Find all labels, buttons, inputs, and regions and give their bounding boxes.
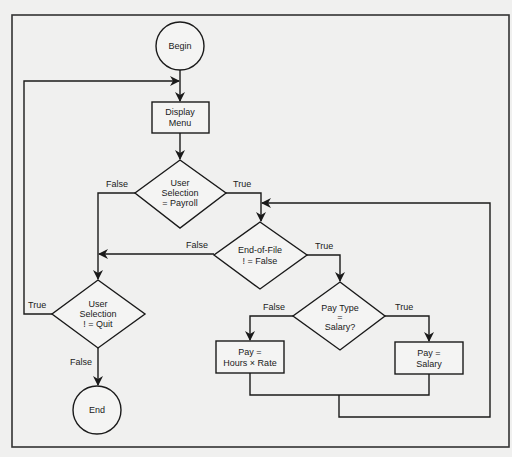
label-payroll-true: True xyxy=(233,179,251,189)
svg-text:Pay =: Pay = xyxy=(417,348,440,358)
svg-text:Pay =: Pay = xyxy=(238,347,261,357)
flowchart-canvas: Begin Display Menu User Selection = Payr… xyxy=(0,0,512,457)
label-quit-true: True xyxy=(28,300,46,310)
label-eof-false: False xyxy=(186,240,208,250)
node-pay-salary: Pay = Salary xyxy=(395,342,463,374)
label-payroll-false: False xyxy=(106,179,128,189)
node-end-of-file: End-of-File ! = False xyxy=(214,222,307,289)
svg-text:Selection: Selection xyxy=(79,309,116,319)
svg-text:Menu: Menu xyxy=(169,118,192,128)
svg-text:Display: Display xyxy=(165,107,195,117)
svg-text:=: = xyxy=(337,312,342,322)
label-eof-true: True xyxy=(315,241,333,251)
svg-text:User: User xyxy=(170,178,189,188)
node-pay-hours-rate: Pay = Hours × Rate xyxy=(216,341,284,373)
edge-pay-merge xyxy=(250,373,429,395)
node-begin: Begin xyxy=(156,22,204,70)
svg-text:User: User xyxy=(88,299,107,309)
node-pay-type: Pay Type = Salary? xyxy=(293,282,385,350)
node-user-selection-payroll: User Selection = Payroll xyxy=(135,160,226,228)
svg-text:Hours × Rate: Hours × Rate xyxy=(223,358,276,368)
node-end: End xyxy=(73,386,121,434)
svg-text:End: End xyxy=(89,405,105,415)
label-paytype-true: True xyxy=(395,302,413,312)
node-display-menu: Display Menu xyxy=(152,102,209,133)
svg-text:Selection: Selection xyxy=(161,188,198,198)
edge-eof-true xyxy=(307,255,340,281)
svg-text:= Payroll: = Payroll xyxy=(162,198,197,208)
label-quit-false: False xyxy=(70,357,92,367)
svg-text:! = False: ! = False xyxy=(243,256,278,266)
edge-payroll-false xyxy=(98,193,135,279)
label-paytype-false: False xyxy=(263,302,285,312)
svg-text:Begin: Begin xyxy=(168,41,191,51)
svg-text:End-of-File: End-of-File xyxy=(238,245,282,255)
svg-text:Salary?: Salary? xyxy=(325,322,356,332)
edge-paytype-true xyxy=(385,316,429,341)
edge-paytype-false xyxy=(250,316,293,340)
node-user-selection-quit: User Selection ! = Quit xyxy=(52,280,145,348)
edge-payroll-true xyxy=(226,193,261,221)
svg-text:! = Quit: ! = Quit xyxy=(83,319,113,329)
svg-text:Salary: Salary xyxy=(416,359,442,369)
